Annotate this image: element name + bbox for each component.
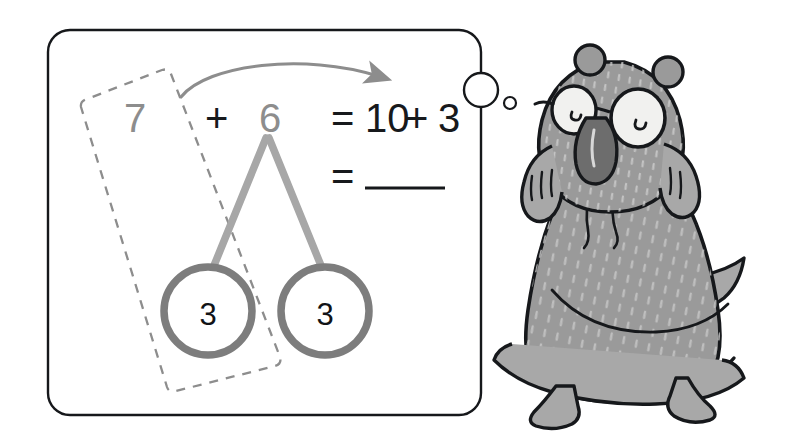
bond-left-value: 3 [199, 297, 216, 332]
plus-operator-second: + [405, 96, 428, 140]
bear-ear-right [653, 57, 683, 87]
equals-second: = [331, 154, 354, 198]
binder-hole-small-icon [504, 97, 516, 109]
bear-ear-left [575, 45, 605, 75]
plus-operator: + [205, 96, 228, 140]
bond-right-value: 3 [316, 297, 333, 332]
addend-left: 7 [124, 96, 146, 140]
ten-value: 10 [365, 96, 410, 140]
three-value: 3 [438, 96, 460, 140]
addend-right: 6 [259, 96, 281, 140]
bear-eye-right [611, 89, 665, 147]
equals-first: = [331, 96, 354, 140]
worksheet-canvas: 7 + 6 = 10 + 3 = 3 3 [0, 0, 795, 436]
bear-mouth [575, 118, 617, 184]
binder-hole-large-icon [464, 73, 498, 107]
